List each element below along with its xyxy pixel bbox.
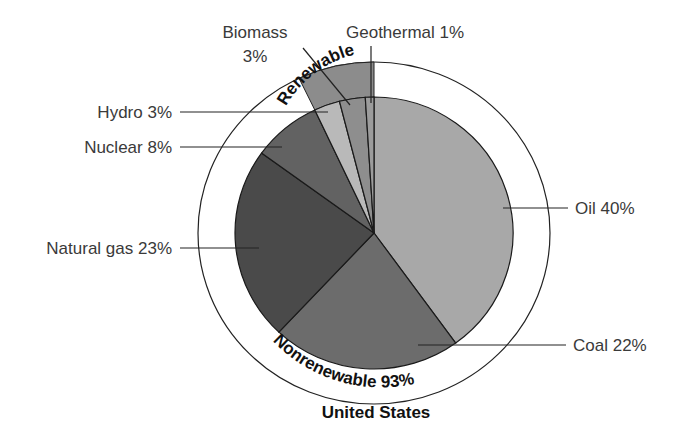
chart-title: United States (322, 403, 431, 422)
label-natural-gas: Natural gas 23% (46, 239, 172, 258)
energy-pie-chart: Hydro 3% Nuclear 8% Natural gas 23% Oil … (0, 0, 680, 441)
label-hydro: Hydro 3% (97, 103, 172, 122)
pie-slices (235, 97, 513, 369)
label-biomass: Biomass (222, 23, 287, 42)
label-oil: Oil 40% (575, 199, 635, 218)
label-biomass-value: 3% (243, 47, 268, 66)
label-geothermal: Geothermal 1% (346, 23, 464, 42)
label-nuclear: Nuclear 8% (84, 138, 172, 157)
label-coal: Coal 22% (573, 336, 647, 355)
